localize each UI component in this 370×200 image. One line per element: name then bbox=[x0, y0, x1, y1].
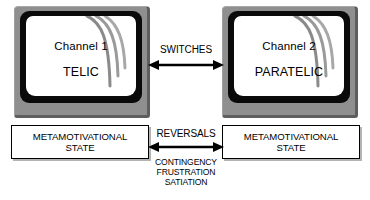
state-box-label-left: METAMOTIVATIONAL STATE bbox=[33, 131, 127, 154]
state-box-label-right: METAMOTIVATIONAL STATE bbox=[244, 131, 338, 154]
reversal-cause-frustration: FRUSTRATION bbox=[150, 167, 222, 177]
tv-screen-right: Channel 2 PARATELIC bbox=[234, 16, 344, 96]
reversals-label: REVERSALS bbox=[150, 128, 222, 139]
tv-frame-right: Channel 2 PARATELIC bbox=[228, 11, 350, 103]
reversal-cause-contingency: CONTINGENCY bbox=[150, 157, 222, 167]
tv-bezel-right: Channel 2 PARATELIC bbox=[222, 6, 358, 118]
diagram-canvas: Channel 1 TELIC Channel 2 PARATELIC bbox=[0, 0, 370, 200]
state-box-line2-right: STATE bbox=[277, 142, 306, 153]
screen-channel-label-right: Channel 2 bbox=[234, 41, 344, 53]
tv-unit-left: Channel 1 TELIC bbox=[14, 6, 150, 118]
screen-mode-label-right: PARATELIC bbox=[234, 66, 344, 79]
state-box-line1-right: METAMOTIVATIONAL bbox=[244, 131, 338, 142]
tv-unit-right: Channel 2 PARATELIC bbox=[222, 6, 358, 118]
double-headed-arrow-icon bbox=[148, 140, 224, 154]
reversals-arrow bbox=[148, 140, 224, 154]
tv-screen-left: Channel 1 TELIC bbox=[26, 16, 136, 96]
switches-label: SWITCHES bbox=[150, 44, 222, 55]
tv-frame-left: Channel 1 TELIC bbox=[20, 11, 142, 103]
state-box-line1-left: METAMOTIVATIONAL bbox=[33, 131, 127, 142]
reversal-causes-list: CONTINGENCY FRUSTRATION SATIATION bbox=[150, 157, 222, 188]
screen-mode-label-left: TELIC bbox=[26, 66, 136, 79]
switches-arrow bbox=[148, 58, 224, 72]
state-box-line2-left: STATE bbox=[66, 142, 95, 153]
reversal-cause-satiation: SATIATION bbox=[150, 177, 222, 187]
double-headed-arrow-icon bbox=[148, 58, 224, 72]
metamotivational-state-box-right: METAMOTIVATIONAL STATE bbox=[222, 125, 360, 159]
screen-channel-label-left: Channel 1 bbox=[26, 41, 136, 53]
tv-bezel-left: Channel 1 TELIC bbox=[14, 6, 150, 118]
metamotivational-state-box-left: METAMOTIVATIONAL STATE bbox=[11, 125, 149, 159]
